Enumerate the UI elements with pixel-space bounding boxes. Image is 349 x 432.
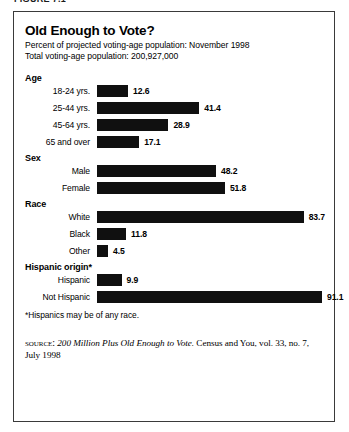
bar-category-label: 25-44 yrs. bbox=[25, 102, 97, 114]
bar-row: Male48.2 bbox=[25, 165, 324, 177]
bar-category-label: Not Hispanic bbox=[25, 291, 97, 303]
bar-row: Other4.5 bbox=[25, 245, 324, 257]
bar-fill bbox=[97, 245, 108, 257]
bar-fill bbox=[97, 102, 199, 114]
bar-row: White83.7 bbox=[25, 211, 324, 223]
bar-category-label: Other bbox=[25, 245, 97, 257]
source-label: source: bbox=[25, 337, 55, 348]
bar-track: 91.1 bbox=[97, 291, 324, 303]
bar-value-label: 48.2 bbox=[221, 165, 237, 177]
figure-content: Old Enough to Vote? Percent of projected… bbox=[25, 23, 324, 413]
bar-value-label: 4.5 bbox=[113, 245, 125, 257]
group-heading: Age bbox=[25, 73, 324, 84]
bar-category-label: 65 and over bbox=[25, 136, 97, 148]
bar-track: 51.8 bbox=[97, 182, 324, 194]
bar-fill bbox=[97, 85, 128, 97]
source-citation: source: 200 Million Plus Old Enough to V… bbox=[25, 337, 324, 361]
bar-track: 48.2 bbox=[97, 165, 324, 177]
bar-category-label: Black bbox=[25, 228, 97, 240]
bar-row: 65 and over17.1 bbox=[25, 136, 324, 148]
group-heading: Sex bbox=[25, 153, 324, 164]
group-heading: Race bbox=[25, 199, 324, 210]
bar-track: 41.4 bbox=[97, 102, 324, 114]
bar-group-age: Age18-24 yrs.12.625-44 yrs.41.445-64 yrs… bbox=[25, 73, 324, 148]
bar-value-label: 28.9 bbox=[173, 119, 189, 131]
group-heading: Hispanic origin* bbox=[25, 262, 324, 273]
chart-footnote: *Hispanics may be of any race. bbox=[25, 310, 324, 321]
source-title: 200 Million Plus Old Enough to Vote. bbox=[57, 338, 194, 348]
figure-frame: Old Enough to Vote? Percent of projected… bbox=[13, 11, 335, 422]
bar-row: 45-64 yrs.28.9 bbox=[25, 119, 324, 131]
bar-track: 4.5 bbox=[97, 245, 324, 257]
bar-value-label: 83.7 bbox=[309, 211, 325, 223]
chart-title: Old Enough to Vote? bbox=[25, 23, 324, 38]
bar-row: Black11.8 bbox=[25, 228, 324, 240]
bar-track: 83.7 bbox=[97, 211, 324, 223]
bar-track: 28.9 bbox=[97, 119, 324, 131]
chart-subtitle-1: Percent of projected voting-age populati… bbox=[25, 40, 324, 51]
bar-row: 18-24 yrs.12.6 bbox=[25, 85, 324, 97]
bar-value-label: 11.8 bbox=[131, 228, 147, 240]
bar-row: 25-44 yrs.41.4 bbox=[25, 102, 324, 114]
bar-group-race: RaceWhite83.7Black11.8Other4.5 bbox=[25, 199, 324, 257]
bar-chart-plot: Age18-24 yrs.12.625-44 yrs.41.445-64 yrs… bbox=[25, 73, 324, 303]
bar-category-label: 45-64 yrs. bbox=[25, 119, 97, 131]
bar-fill bbox=[97, 211, 304, 223]
bar-value-label: 12.6 bbox=[133, 85, 149, 97]
bar-category-label: 18-24 yrs. bbox=[25, 85, 97, 97]
bar-group-sex: SexMale48.2Female51.8 bbox=[25, 153, 324, 194]
bar-category-label: Hispanic bbox=[25, 274, 97, 286]
bar-track: 9.9 bbox=[97, 274, 324, 286]
bar-fill bbox=[97, 228, 126, 240]
bar-value-label: 91.1 bbox=[327, 291, 343, 303]
bar-row: Female51.8 bbox=[25, 182, 324, 194]
bar-track: 17.1 bbox=[97, 136, 324, 148]
bar-value-label: 41.4 bbox=[204, 102, 220, 114]
bar-group-hispanic-origin: Hispanic origin*Hispanic9.9Not Hispanic9… bbox=[25, 262, 324, 303]
bar-value-label: 9.9 bbox=[127, 274, 139, 286]
bar-category-label: Female bbox=[25, 182, 97, 194]
bar-category-label: Male bbox=[25, 165, 97, 177]
bar-fill bbox=[97, 182, 225, 194]
figure-caption: FIGURE 7.1 bbox=[14, 0, 66, 2]
bar-fill bbox=[97, 119, 168, 131]
bar-value-label: 51.8 bbox=[230, 182, 246, 194]
bar-fill bbox=[97, 165, 216, 177]
chart-subtitle-2: Total voting-age population: 200,927,000 bbox=[25, 51, 324, 62]
bar-row: Not Hispanic91.1 bbox=[25, 291, 324, 303]
bar-category-label: White bbox=[25, 211, 97, 223]
bar-row: Hispanic9.9 bbox=[25, 274, 324, 286]
bar-value-label: 17.1 bbox=[144, 136, 160, 148]
bar-fill bbox=[97, 291, 322, 303]
bar-fill bbox=[97, 274, 122, 286]
bar-track: 12.6 bbox=[97, 85, 324, 97]
bar-track: 11.8 bbox=[97, 228, 324, 240]
bar-fill bbox=[97, 136, 139, 148]
